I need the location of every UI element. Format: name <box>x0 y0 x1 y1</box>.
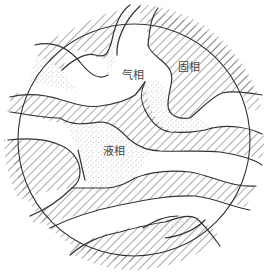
solid-phase-label: 固相 <box>178 61 200 74</box>
liquid-phase-label: 液相 <box>103 144 125 158</box>
solid-phase-region <box>0 216 266 274</box>
gas-phase-label: 气相 <box>122 68 144 82</box>
three-phase-diagram: 气相 固相 液相 <box>0 0 266 274</box>
